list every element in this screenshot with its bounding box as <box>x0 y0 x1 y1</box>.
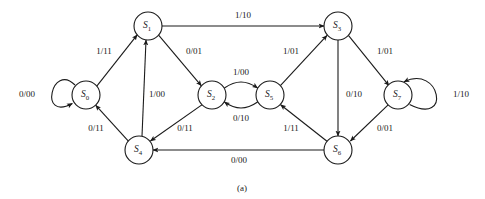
edge-s5-s2 <box>224 102 257 108</box>
edge-s0-s1 <box>97 35 137 86</box>
edge-s1-s2 <box>159 35 202 86</box>
state-subscript-s4: 4 <box>139 148 143 155</box>
state-subscript-s2: 2 <box>212 93 216 100</box>
edge-label-s7-s7: 1/10 <box>453 89 470 99</box>
state-subscript-s5: 5 <box>270 93 274 100</box>
edge-s5-s3 <box>280 35 327 85</box>
state-subscript-s3: 3 <box>338 24 342 31</box>
edge-s3-s7 <box>348 35 389 85</box>
edge-label-s6-s4: 0/00 <box>231 155 248 165</box>
state-subscript-s7: 7 <box>398 93 402 100</box>
edge-label-s5-s2: 0/10 <box>233 113 250 123</box>
nodes-layer <box>72 12 412 164</box>
state-diagram-canvas: S0 S1 S2 S3 S4 S5 S6 S7 <box>0 0 485 199</box>
edge-label-s2-s4: 0/11 <box>177 123 193 133</box>
edge-s2-s5 <box>224 82 257 88</box>
state-diagram-figure: S0 S1 S2 S3 S4 S5 S6 S7 <box>0 0 485 199</box>
edge-label-s1-s2: 0/01 <box>186 46 202 56</box>
edge-label-s4-s1: 1/00 <box>149 89 166 99</box>
edge-label-s0-s1: 1/11 <box>96 46 112 56</box>
edge-s0-s0 <box>52 80 75 107</box>
figure-caption: (a) <box>237 183 247 193</box>
state-subscript-s0: 0 <box>86 93 90 100</box>
edge-label-s0-s0: 0/00 <box>19 89 36 99</box>
edge-label-s6-s5: 1/11 <box>283 123 299 133</box>
edge-label-s5-s3: 1/01 <box>283 46 299 56</box>
edge-label-s3-s7: 1/01 <box>377 46 393 56</box>
state-subscript-s6: 6 <box>338 148 342 155</box>
edge-label-s1-s3: 1/10 <box>235 10 252 20</box>
edge-label-s7-s6: 0/01 <box>377 123 393 133</box>
edge-label-s2-s5: 1/00 <box>233 67 250 77</box>
node-labels-layer: S0 S1 S2 S3 S4 S5 S6 S7 <box>81 20 402 155</box>
edge-label-s4-s0: 0/11 <box>88 123 104 133</box>
edge-label-s3-s6: 0/10 <box>346 89 363 99</box>
edge-s4-s1 <box>142 40 146 136</box>
state-subscript-s1: 1 <box>148 24 151 31</box>
